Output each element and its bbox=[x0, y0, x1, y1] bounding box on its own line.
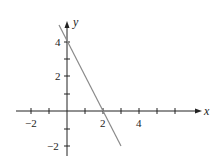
x-axis-label: x bbox=[203, 104, 210, 118]
y-tick-label-2: 2 bbox=[55, 70, 61, 82]
y-axis-label: y bbox=[72, 15, 79, 29]
y-axis-arrow-icon bbox=[65, 21, 70, 28]
data-line bbox=[59, 25, 121, 146]
y-tick-label-neg2: −2 bbox=[47, 140, 59, 152]
x-tick-label-2: 2 bbox=[100, 117, 106, 129]
x-tick-label-4: 4 bbox=[136, 117, 142, 129]
x-axis-arrow-icon bbox=[195, 109, 202, 114]
chart: x y −2 2 4 4 2 −2 bbox=[0, 0, 215, 168]
y-tick-label-4: 4 bbox=[55, 36, 61, 48]
x-tick-label-neg2: −2 bbox=[25, 117, 37, 129]
